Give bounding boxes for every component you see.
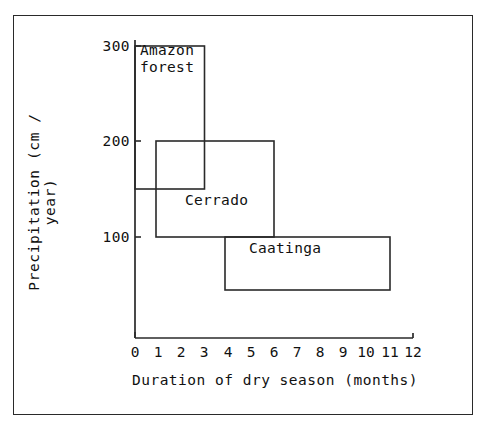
x-tick-label-7: 7	[285, 344, 309, 360]
y-tick-label-100: 100	[84, 229, 130, 245]
x-tick-label-4: 4	[216, 344, 240, 360]
x-tick-label-8: 8	[308, 344, 332, 360]
x-tick-label-1: 1	[146, 344, 170, 360]
x-tick-label-5: 5	[239, 344, 263, 360]
x-tick-label-2: 2	[169, 344, 193, 360]
y-axis-title: Precipitation (cm / year)	[26, 97, 58, 307]
x-tick-label-12: 12	[401, 344, 425, 360]
figure-canvas: 300 200 100 0 1 2 3 4 5 6 7 8 9 10 11 12…	[0, 0, 485, 430]
chart-plot-area	[0, 0, 485, 430]
x-axis-title: Duration of dry season (months)	[110, 372, 440, 388]
y-tick-label-200: 200	[84, 133, 130, 149]
box-label-cerrado: Cerrado	[185, 192, 248, 209]
x-tick-label-11: 11	[378, 344, 402, 360]
x-tick-label-10: 10	[354, 344, 378, 360]
box-label-caatinga: Caatinga	[249, 240, 321, 257]
x-tick-label-6: 6	[262, 344, 286, 360]
x-tick-label-9: 9	[331, 344, 355, 360]
y-tick-label-300: 300	[84, 38, 130, 54]
x-tick-label-0: 0	[123, 344, 147, 360]
box-label-amazon-forest: Amazon forest	[140, 42, 194, 76]
x-tick-label-3: 3	[192, 344, 216, 360]
